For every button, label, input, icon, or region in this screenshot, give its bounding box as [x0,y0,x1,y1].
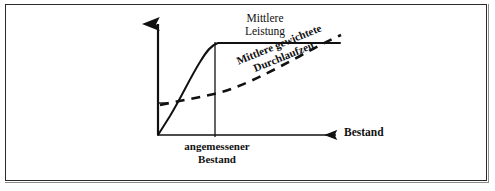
x-axis-label-bestand: Bestand [344,126,384,138]
label-angemessener-line2: Bestand [163,153,271,166]
figure-page: Mittlere Leistung Mittlere gewichtete Du… [0,0,495,191]
label-angemessener-line1: angemessener [163,140,271,153]
label-angemessener-bestand: angemessener Bestand [163,140,271,166]
label-mittlere-leistung-line1: Mittlere [222,12,308,25]
